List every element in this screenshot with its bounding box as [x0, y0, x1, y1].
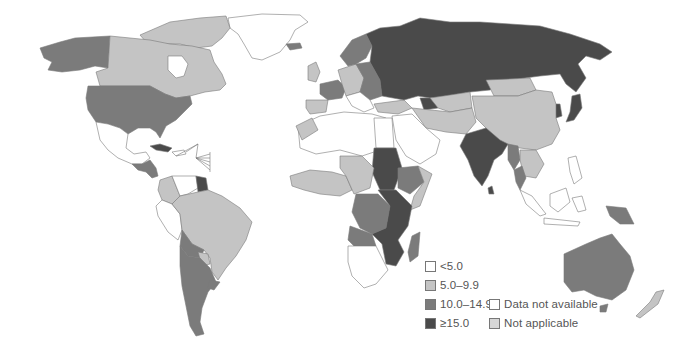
region-alaska	[40, 36, 110, 72]
region-sri-lanka	[488, 186, 494, 194]
legend-label: 5.0–9.9	[440, 279, 479, 291]
legend-item-lt5: <5.0	[425, 258, 463, 274]
caribbean-callout	[176, 144, 210, 172]
region-guyana	[196, 176, 208, 192]
region-scandinavia	[340, 34, 372, 66]
legend-label: Not applicable	[504, 317, 578, 329]
map-legend: <5.0 5.0–9.9 10.0–14.9 ≥15.0 Data not av…	[425, 258, 675, 338]
region-uruguay	[208, 280, 220, 290]
region-borneo	[550, 188, 570, 212]
legend-swatch	[425, 318, 436, 329]
region-papua	[606, 206, 634, 224]
legend-swatch	[489, 318, 500, 329]
legend-swatch	[425, 261, 436, 272]
region-sumatra	[520, 190, 546, 216]
region-egypt	[374, 118, 394, 148]
region-cuba	[150, 144, 172, 152]
region-southern-africa	[348, 246, 388, 288]
legend-item-10-14: 10.0–14.9	[425, 296, 492, 312]
region-west-africa	[290, 170, 352, 196]
legend-item-5-9: 5.0–9.9	[425, 277, 479, 293]
region-java	[544, 218, 580, 226]
legend-swatch	[425, 280, 436, 291]
region-myanmar	[508, 144, 520, 170]
region-turkey	[374, 100, 412, 114]
region-iberia	[306, 100, 328, 114]
region-caribbean	[172, 150, 186, 156]
region-drc	[352, 194, 390, 234]
region-russia	[366, 18, 612, 100]
legend-label: ≥15.0	[440, 317, 469, 329]
region-sudan	[372, 148, 402, 190]
legend-label: 10.0–14.9	[440, 298, 492, 310]
legend-label: <5.0	[440, 260, 463, 272]
region-philippines	[568, 156, 582, 184]
legend-swatch	[489, 299, 500, 310]
legend-item-ge15: ≥15.0	[425, 315, 469, 331]
legend-item-not-applicable: Not applicable	[489, 315, 578, 331]
region-iceland	[286, 43, 302, 50]
legend-swatch	[425, 299, 436, 310]
legend-item-data-not-available: Data not available	[489, 296, 598, 312]
region-sulawesi	[572, 196, 586, 212]
region-greenland	[228, 14, 308, 60]
region-madagascar	[408, 232, 420, 262]
legend-label: Data not available	[504, 298, 598, 310]
region-uk-ireland	[308, 62, 320, 82]
region-japan	[566, 94, 582, 122]
